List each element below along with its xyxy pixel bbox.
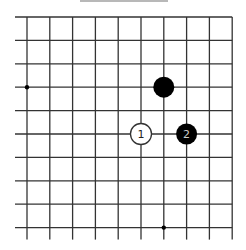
grid-lines bbox=[15, 17, 232, 240]
move-number-label: 2 bbox=[183, 128, 190, 141]
black-stone-disc bbox=[153, 77, 174, 98]
white-stone: 1 bbox=[131, 124, 152, 145]
star-point-icon bbox=[162, 225, 166, 229]
go-board: 12 bbox=[0, 0, 246, 250]
black-stone bbox=[153, 77, 174, 98]
star-point-icon bbox=[25, 85, 29, 89]
move-number-label: 1 bbox=[138, 128, 145, 141]
black-stone: 2 bbox=[176, 124, 197, 145]
